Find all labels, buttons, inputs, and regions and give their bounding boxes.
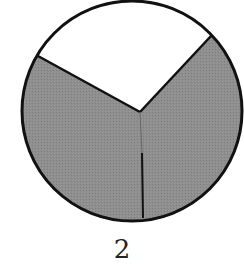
- divider-bottom: [142, 153, 143, 218]
- figure-label: 2: [0, 234, 244, 264]
- fraction-circle-diagram: [0, 0, 244, 267]
